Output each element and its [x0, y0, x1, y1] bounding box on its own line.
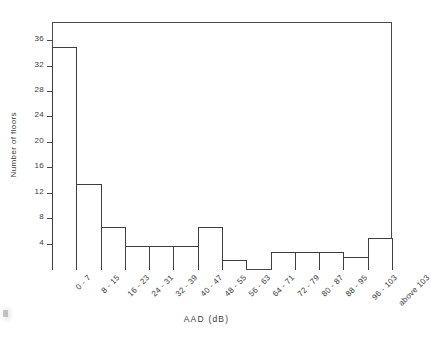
x-tick-label: 56 - 63 — [247, 273, 272, 298]
y-tick-mark — [47, 116, 52, 117]
x-tick-label: 8 - 15 — [100, 273, 122, 295]
y-tick-mark — [47, 167, 52, 168]
x-tick-label: 80 - 87 — [320, 273, 345, 298]
x-axis-title: AAD (dB) — [0, 314, 413, 324]
x-tick-label: 88 - 95 — [344, 273, 369, 298]
y-tick-label: 16 — [35, 161, 45, 170]
y-tick-mark — [47, 142, 52, 143]
y-axis-title: Number of floors — [9, 112, 23, 178]
y-tick-label: 24 — [35, 110, 45, 119]
x-tick-label: 24 - 31 — [150, 273, 175, 298]
y-tick-label: 4 — [39, 238, 44, 247]
x-tick-label: above 103 — [397, 273, 431, 308]
y-tick-mark — [47, 218, 52, 219]
x-tick-label: 32 - 39 — [174, 273, 199, 298]
y-tick-label: 12 — [35, 187, 45, 196]
x-axis-tick-labels: 0 - 78 - 1516 - 2324 - 3132 - 3940 - 474… — [52, 270, 392, 314]
y-tick-mark — [47, 40, 52, 41]
x-tick-label: 40 - 47 — [198, 273, 223, 298]
x-tick-label: 96 - 103 — [370, 273, 399, 302]
y-tick-label: 32 — [35, 60, 45, 69]
y-tick-label: 20 — [35, 136, 45, 145]
y-tick-mark — [47, 91, 52, 92]
y-tick-label: 28 — [35, 85, 45, 94]
y-axis: 4812162024283236 — [0, 22, 52, 270]
y-tick-mark — [47, 244, 52, 245]
x-tick-label: 64 - 71 — [271, 273, 296, 298]
x-tick-label: 72 - 79 — [296, 273, 321, 298]
x-tick-label: 48 - 55 — [223, 273, 248, 298]
x-tick-label: 0 - 7 — [74, 273, 93, 292]
y-tick-mark — [47, 66, 52, 67]
scan-artifact — [3, 310, 8, 317]
y-tick-label: 8 — [39, 212, 44, 221]
y-tick-label: 36 — [35, 34, 45, 43]
y-tick-mark — [47, 193, 52, 194]
plot-frame — [52, 22, 392, 270]
x-tick-label: 16 - 23 — [126, 273, 151, 298]
